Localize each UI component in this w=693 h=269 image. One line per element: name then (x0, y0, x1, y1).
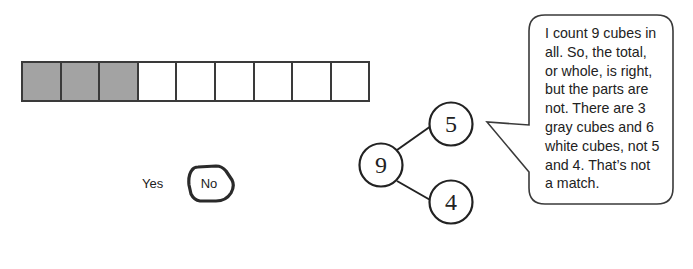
speech-line-1: I count 9 cubes in (545, 24, 671, 43)
speech-line-5: not. There are 3 (545, 99, 671, 118)
speech-line-3: or whole, is right, (545, 62, 671, 81)
speech-line-8: and 4. That’s not (545, 156, 671, 175)
speech-line-4: but the parts are (545, 80, 671, 99)
speech-line-7: white cubes, not 5 (545, 137, 671, 156)
speech-line-6: gray cubes and 6 (545, 118, 671, 137)
speech-line-9: a match. (545, 174, 671, 193)
speech-bubble-text: I count 9 cubes in all. So, the total, o… (545, 24, 671, 193)
speech-line-2: all. So, the total, (545, 43, 671, 62)
